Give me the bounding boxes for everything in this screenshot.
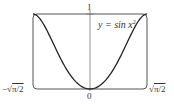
- x-tick-label-origin: 0: [87, 92, 92, 101]
- x-tick-label-left-bound: −√π/2: [2, 85, 24, 94]
- left-bound-radicand: π/2: [12, 84, 24, 94]
- right-bound-radicand: π/2: [154, 84, 166, 94]
- plot-area: [0, 0, 174, 105]
- equation-label: y = sin x2: [98, 19, 136, 30]
- left-bound-prefix: −√: [2, 84, 12, 94]
- x-tick-label-right-bound: √π/2: [149, 85, 166, 94]
- equation-main: y = sin x: [98, 19, 133, 30]
- y-tick-label-1: 1: [87, 3, 92, 12]
- equation-exponent: 2: [133, 19, 136, 25]
